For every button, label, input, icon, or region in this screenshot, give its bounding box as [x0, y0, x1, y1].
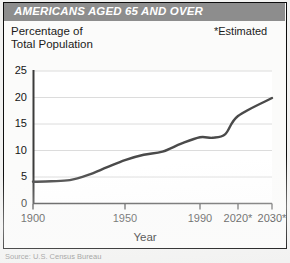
chart-plot-area — [0, 0, 290, 263]
x-axis-ticks — [33, 204, 272, 210]
x-axis-title: Year — [0, 231, 290, 243]
plot-background — [33, 71, 272, 203]
source-note: Source: U.S. Census Bureau — [5, 252, 285, 261]
chart-figure: AMERICANS AGED 65 AND OVER Percentage of… — [0, 0, 290, 263]
